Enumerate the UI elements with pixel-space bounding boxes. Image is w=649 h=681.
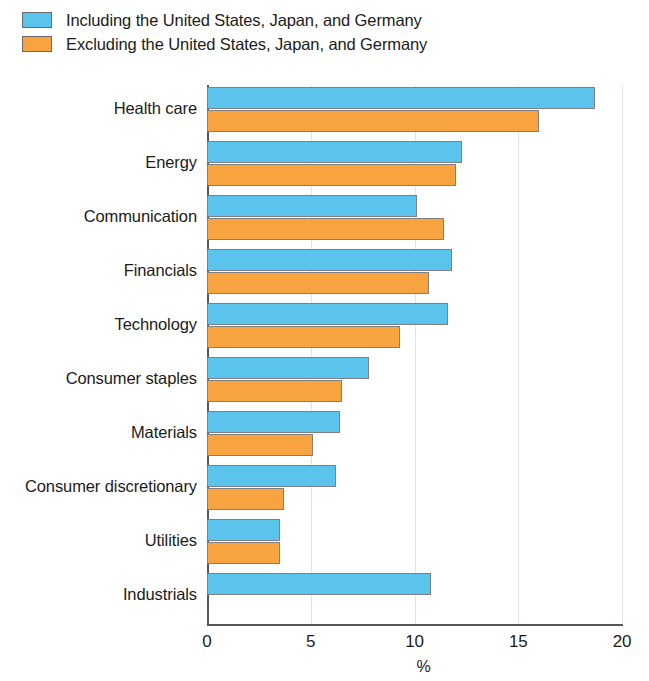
category-row: Consumer staples	[0, 355, 649, 409]
bar-chart: Health careEnergyCommunicationFinancials…	[0, 0, 649, 681]
category-label: Utilities	[0, 530, 197, 550]
category-row: Energy	[0, 139, 649, 193]
bar-excluding	[207, 380, 342, 402]
x-tick-label: 0	[177, 632, 237, 652]
x-tick-label: 5	[281, 632, 341, 652]
category-row: Materials	[0, 409, 649, 463]
category-row: Technology	[0, 301, 649, 355]
bar-excluding	[207, 272, 429, 294]
x-tick-label: 20	[592, 632, 649, 652]
bar-excluding	[207, 218, 444, 240]
category-label: Consumer discretionary	[0, 476, 197, 496]
bar-excluding	[207, 542, 280, 564]
category-row: Health care	[0, 85, 649, 139]
category-label: Consumer staples	[0, 368, 197, 388]
bar-including	[207, 87, 595, 109]
bar-including	[207, 519, 280, 541]
bar-excluding	[207, 110, 539, 132]
category-label: Financials	[0, 260, 197, 280]
category-row: Utilities	[0, 517, 649, 571]
category-label: Industrials	[0, 584, 197, 604]
category-row: Financials	[0, 247, 649, 301]
bar-including	[207, 249, 452, 271]
bar-including	[207, 141, 462, 163]
bar-including	[207, 195, 417, 217]
bar-including	[207, 303, 448, 325]
category-label: Health care	[0, 98, 197, 118]
category-label: Energy	[0, 152, 197, 172]
bar-excluding	[207, 326, 400, 348]
category-label: Materials	[0, 422, 197, 442]
category-label: Technology	[0, 314, 197, 334]
bar-excluding	[207, 164, 456, 186]
category-label: Communication	[0, 206, 197, 226]
bar-including	[207, 411, 340, 433]
x-axis-title: %	[0, 658, 649, 676]
bar-including	[207, 357, 369, 379]
x-tick-label: 10	[385, 632, 445, 652]
x-axis-title-text: %	[416, 658, 430, 675]
bar-excluding	[207, 434, 313, 456]
bar-including	[207, 465, 336, 487]
category-row: Consumer discretionary	[0, 463, 649, 517]
category-row: Industrials	[0, 571, 649, 625]
bar-including	[207, 573, 431, 595]
category-row: Communication	[0, 193, 649, 247]
x-tick-label: 15	[488, 632, 548, 652]
bar-excluding	[207, 488, 284, 510]
